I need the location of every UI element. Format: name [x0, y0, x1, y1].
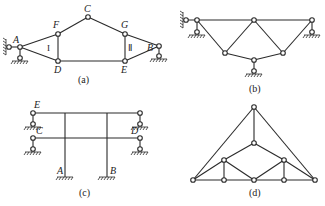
diagram-b: (b)	[180, 11, 320, 95]
label-a-node-d: D	[53, 64, 62, 75]
supports-c	[24, 111, 148, 180]
caption-c: (c)	[79, 187, 90, 199]
label-region-ii: Ⅱ	[128, 43, 132, 53]
nodes-b	[195, 18, 315, 63]
label-a-node-f: F	[52, 19, 60, 30]
caption-a: (a)	[78, 74, 89, 86]
members-a	[9, 17, 159, 61]
label-a-node-g: G	[121, 19, 128, 30]
label-c-node-a: A	[56, 165, 64, 176]
label-a-node-b: B	[147, 42, 153, 53]
caption-d: (d)	[249, 187, 261, 199]
label-a-node-a: A	[12, 34, 20, 45]
support-b-right	[150, 54, 167, 62]
label-c-node-b: B	[110, 165, 116, 176]
supports-b	[180, 11, 320, 77]
members-c	[33, 113, 140, 177]
diagram-d: (d)	[191, 105, 318, 199]
members-b	[186, 20, 312, 71]
label-c-node-e: E	[33, 99, 40, 110]
diagram-a: A F C G B D E I Ⅱ (a)	[3, 3, 167, 86]
label-a-node-c: C	[84, 3, 91, 14]
label-a-node-e: E	[120, 64, 127, 75]
label-c-node-c: C	[36, 125, 43, 136]
diagram-c: E C D A B (c)	[24, 99, 148, 199]
caption-b: (b)	[249, 83, 261, 95]
truss-diagrams-figure: A F C G B D E I Ⅱ (a)	[0, 0, 325, 206]
label-c-node-d: D	[130, 125, 139, 136]
label-region-i: I	[47, 43, 50, 53]
